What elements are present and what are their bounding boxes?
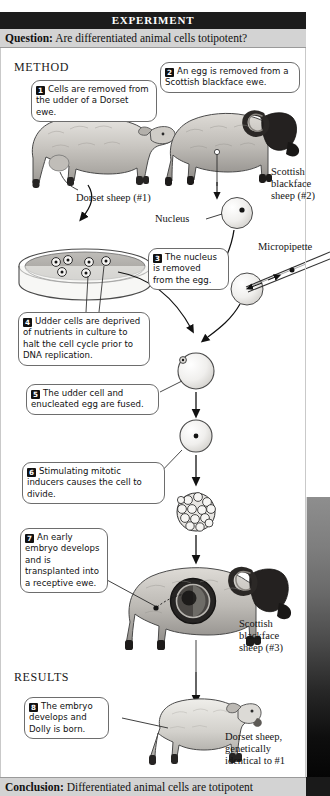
step-1-number: 1 [36,86,45,95]
label-dolly-line3: identical to #1 [225,755,305,767]
step-3-text: The nucleus is removed from the egg. [153,252,217,285]
photo-strip-dolly [306,497,330,777]
step-8-callout: 8The embryo develops and Dolly is born. [24,697,109,739]
step-2-text: An egg is removed from a Scottish blackf… [165,66,288,87]
step-6-text: Stimulating mitotic inducers causes the … [27,466,142,499]
question-bar: Question: Are differentiated animal cell… [0,29,306,48]
label-scottish-sheep-3: Scottish blackface sheep (#3) [239,618,301,654]
label-scottish-sheep-3-line1: Scottish [239,618,301,630]
step-1-text: Cells are removed from the udder of a Do… [36,84,149,117]
step-4-text: Udder cells are deprived of nutrients in… [23,316,140,360]
step-3-number: 3 [153,254,162,263]
step-4-callout: 4Udder cells are deprived of nutrients i… [18,312,150,366]
label-scottish-sheep-2-line1: Scottish [271,166,329,178]
label-scottish-sheep-2: Scottish blackface sheep (#2) [271,166,329,202]
label-scottish-sheep-3-line3: sheep (#3) [239,642,301,654]
results-heading: RESULTS [14,670,69,685]
question-label: Question: [5,32,53,44]
step-5-text: The udder cell and enucleated egg are fu… [31,388,144,409]
step-3-callout: 3The nucleus is removed from the egg. [148,248,229,290]
step-7-callout: 7An early embryo develops and is transpl… [20,528,108,593]
experiment-banner: EXPERIMENT [0,12,306,29]
conclusion-text: Differentiated animal cells are totipote… [67,781,253,793]
label-dolly-line1: Dorset sheep, [225,731,305,743]
label-micropipette: Micropipette [258,241,312,253]
step-5-callout: 5The udder cell and enucleated egg are f… [26,384,159,415]
step-5-number: 5 [31,390,40,399]
photo-strip-footer [306,777,330,796]
label-dolly-line2: genetically [225,743,305,755]
step-7-number: 7 [25,534,34,543]
method-heading: METHOD [14,60,69,75]
step-2-number: 2 [165,68,174,77]
step-8-text: The embryo develops and Dolly is born. [29,701,93,734]
step-6-number: 6 [27,468,36,477]
label-dolly-genetics: Dorset sheep, genetically identical to #… [225,731,305,767]
step-8-number: 8 [29,703,38,712]
step-4-number: 4 [23,318,32,327]
step-7-text: An early embryo develops and is transpla… [25,532,99,588]
conclusion-bar: Conclusion: Differentiated animal cells … [0,777,306,796]
conclusion-label: Conclusion: [5,781,64,793]
label-scottish-sheep-2-line3: sheep (#2) [271,190,329,202]
label-scottish-sheep-3-line2: blackface [239,630,301,642]
label-scottish-sheep-2-line2: blackface [271,178,329,190]
label-nucleus: Nucleus [155,213,189,225]
step-2-callout: 2An egg is removed from a Scottish black… [160,62,300,93]
step-6-callout: 6Stimulating mitotic inducers causes the… [22,462,165,504]
step-1-callout: 1Cells are removed from the udder of a D… [31,80,157,122]
experiment-figure: EXPERIMENT Question: Are differentiated … [0,0,330,796]
question-text: Are differentiated animal cells totipote… [55,32,247,44]
label-dorset-sheep-1: Dorset sheep (#1) [76,192,151,204]
